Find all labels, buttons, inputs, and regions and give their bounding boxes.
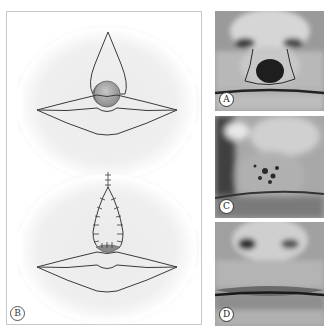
- photo-panel-c: C: [215, 116, 324, 218]
- top-diagram: [17, 27, 197, 181]
- surgical-diagram: [7, 12, 203, 326]
- illustration-panel: B: [6, 11, 202, 325]
- bottom-diagram: [17, 172, 197, 324]
- panel-label-a: A: [219, 92, 234, 107]
- photo-panel-a: A: [215, 11, 324, 111]
- panel-label-d: D: [219, 307, 234, 322]
- photo-panel-d: D: [215, 222, 324, 326]
- panel-label-b: B: [10, 306, 25, 321]
- panel-label-c: C: [219, 199, 234, 214]
